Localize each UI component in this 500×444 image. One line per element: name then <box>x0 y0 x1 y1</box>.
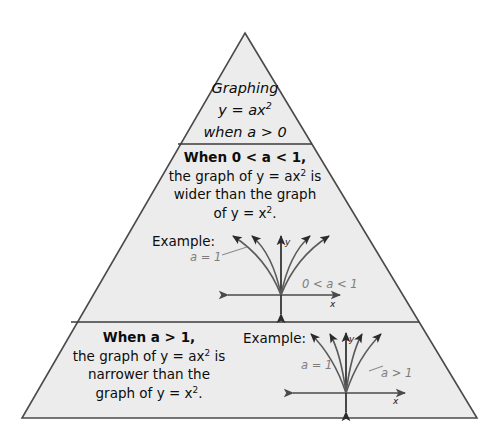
pyramid-svg <box>0 0 500 444</box>
pyramid-outline <box>22 33 477 418</box>
pyramid-diagram: Graphing y = ax2 when a > 0 When 0 < a <… <box>0 0 500 444</box>
